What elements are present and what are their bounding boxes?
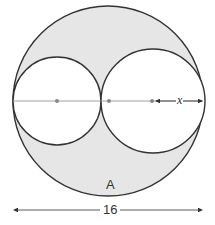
right-center-dot bbox=[150, 99, 154, 103]
x-label: x bbox=[176, 94, 183, 106]
left-center-dot bbox=[55, 99, 59, 103]
circle-area-diagram: x A 16 bbox=[0, 0, 215, 225]
outer-center-dot bbox=[107, 99, 111, 103]
diameter-label: 16 bbox=[100, 203, 120, 216]
region-a-label: A bbox=[106, 178, 115, 191]
